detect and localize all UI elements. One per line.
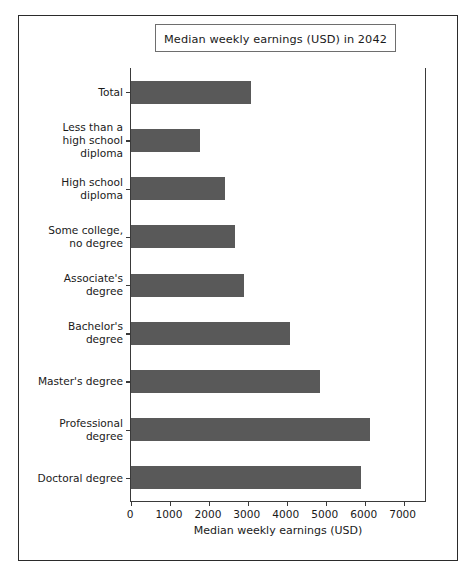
y-axis-tick (126, 189, 131, 190)
y-axis-tick-label: Associate's degree (64, 272, 123, 298)
x-axis-tick (326, 501, 327, 506)
y-axis-tick-label: Bachelor's degree (68, 320, 123, 346)
x-axis-tick-label: 5000 (311, 508, 338, 520)
x-axis-tick (209, 501, 210, 506)
chart-title: Median weekly earnings (USD) in 2042 (164, 33, 387, 46)
x-axis-tick (365, 501, 366, 506)
x-axis-tick-label: 4000 (272, 508, 299, 520)
y-axis-tick-label: Master's degree (38, 375, 123, 388)
x-axis-tick-label: 2000 (194, 508, 221, 520)
chart-title-box: Median weekly earnings (USD) in 2042 (155, 24, 396, 52)
x-axis-tick (248, 501, 249, 506)
bar (131, 81, 251, 104)
x-axis-tick-label: 6000 (350, 508, 377, 520)
y-axis-tick (126, 237, 131, 238)
y-axis-tick-label: Doctoral degree (38, 471, 123, 484)
bar (131, 274, 244, 297)
figure: Median weekly earnings (USD) in 2042 Tot… (0, 0, 475, 577)
bar (131, 418, 370, 441)
bar (131, 466, 361, 489)
y-axis-tick (126, 381, 131, 382)
x-axis-tick (287, 501, 288, 506)
x-axis-tick (404, 501, 405, 506)
x-axis-tick-label: 3000 (233, 508, 260, 520)
bar (131, 225, 235, 248)
y-axis-tick-label: Professional degree (59, 417, 123, 443)
x-axis-tick-label: 0 (127, 508, 134, 520)
plot-area (130, 68, 426, 502)
y-axis-tick (126, 333, 131, 334)
y-axis-tick-label: High school diploma (61, 176, 123, 202)
y-axis-tick (126, 478, 131, 479)
x-axis-label: Median weekly earnings (USD) (130, 524, 426, 537)
y-axis-tick-label: Total (98, 86, 123, 99)
bar (131, 370, 320, 393)
y-axis-tick-label: Less than a high school diploma (62, 121, 123, 160)
bar (131, 322, 290, 345)
y-axis-tick (126, 430, 131, 431)
y-axis-tick (126, 92, 131, 93)
x-axis-tick-label: 1000 (155, 508, 182, 520)
x-axis-tick-label: 7000 (389, 508, 416, 520)
bar (131, 129, 200, 152)
y-axis-tick (126, 140, 131, 141)
y-axis-tick-label: Some college, no degree (48, 224, 123, 250)
x-axis-tick (131, 501, 132, 506)
x-axis-tick (170, 501, 171, 506)
y-axis-tick-labels: TotalLess than a high school diplomaHigh… (10, 68, 123, 502)
bar (131, 177, 225, 200)
y-axis-tick (126, 285, 131, 286)
